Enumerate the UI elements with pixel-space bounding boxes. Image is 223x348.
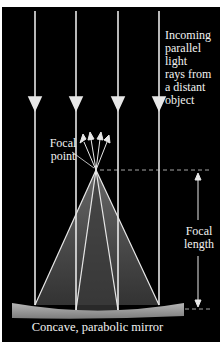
- mirror-label: Concave, parabolic mirror: [0, 321, 195, 334]
- label-line: object: [165, 94, 223, 107]
- diverging-rays: [80, 132, 110, 170]
- incoming-rays-label: Incoming parallel light rays from a dist…: [165, 29, 223, 107]
- reflected-cone: [35, 170, 159, 310]
- label-line: point: [48, 150, 78, 163]
- focal-point-label: Focal point: [48, 137, 78, 163]
- label-line: length: [182, 238, 216, 251]
- focal-length-label: Focal length: [182, 225, 216, 251]
